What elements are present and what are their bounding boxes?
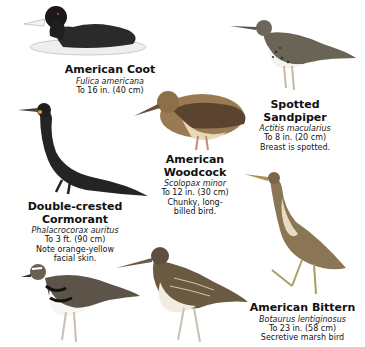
american-bittern-illustration [240, 168, 360, 300]
american-woodcock-caption: American Woodcock Scolopax minor To 12 i… [142, 154, 248, 216]
bird-name-line2: Woodcock [142, 167, 248, 180]
bird-note: Secretive marsh bird [240, 333, 365, 342]
scientific-name: Scolopax minor [142, 179, 248, 188]
bird-name-line1: Double-crested [0, 201, 150, 214]
bird-name: American Coot [40, 64, 180, 77]
scientific-name: Botaurus lentiginosus [240, 315, 365, 324]
bird-size: To 23 in. (58 cm) [240, 324, 365, 333]
scientific-name: Phalacrocorax auritus [0, 226, 150, 235]
bird-name-line1: American [142, 154, 248, 167]
bird-size: To 12 in. (30 cm) [142, 188, 248, 197]
wilson-snipe-illustration [114, 242, 250, 346]
bird-name-line2: Cormorant [0, 214, 150, 227]
bird-note-line2: billed bird. [142, 207, 248, 216]
american-coot-illustration [18, 2, 148, 62]
american-bittern-caption: American Bittern Botaurus lentiginosus T… [240, 302, 365, 342]
bird-name: American Bittern [240, 302, 365, 315]
bird-note-line1: Chunky, long- [142, 198, 248, 207]
double-crested-cormorant-illustration [16, 96, 156, 198]
